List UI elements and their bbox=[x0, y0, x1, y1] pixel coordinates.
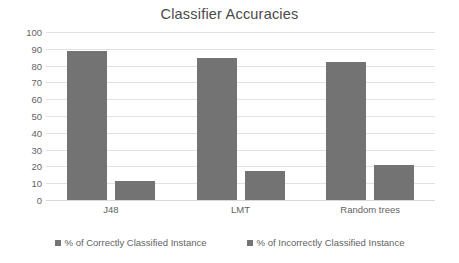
chart-title: Classifier Accuracies bbox=[0, 6, 459, 22]
legend-swatch-icon bbox=[247, 240, 253, 246]
legend-entry[interactable]: % of Correctly Classified Instance bbox=[55, 237, 207, 248]
legend-swatch-icon bbox=[55, 240, 61, 246]
y-axis-tick-label: 60 bbox=[0, 94, 42, 105]
bar bbox=[197, 58, 237, 200]
y-axis-tick-label: 30 bbox=[0, 144, 42, 155]
y-axis-tick-label: 100 bbox=[0, 27, 42, 38]
y-axis-tick-label: 20 bbox=[0, 161, 42, 172]
bar-group bbox=[197, 32, 285, 200]
y-axis-tick-label: 90 bbox=[0, 43, 42, 54]
y-axis-tick-label: 0 bbox=[0, 195, 42, 206]
bar-group bbox=[326, 32, 414, 200]
x-axis-tick-label: LMT bbox=[231, 204, 250, 215]
bar-group bbox=[67, 32, 155, 200]
plot-area bbox=[46, 32, 435, 200]
legend-label: % of Correctly Classified Instance bbox=[65, 237, 207, 248]
bar bbox=[67, 51, 107, 200]
y-axis-tick-label: 80 bbox=[0, 60, 42, 71]
x-axis-tick-label: Random trees bbox=[340, 204, 400, 215]
x-axis-tick-label: J48 bbox=[103, 204, 118, 215]
y-axis-tick-label: 10 bbox=[0, 178, 42, 189]
y-axis-tick-label: 40 bbox=[0, 127, 42, 138]
bar bbox=[374, 165, 414, 200]
legend-label: % of Incorrectly Classified Instance bbox=[257, 237, 405, 248]
bar bbox=[245, 171, 285, 200]
y-axis-tick-label: 70 bbox=[0, 77, 42, 88]
legend-entry[interactable]: % of Incorrectly Classified Instance bbox=[247, 237, 405, 248]
bar bbox=[326, 62, 366, 200]
bar bbox=[115, 181, 155, 200]
y-axis-tick-label: 50 bbox=[0, 111, 42, 122]
y-axis: 1009080706050403020100 bbox=[0, 32, 42, 200]
chart-legend: % of Correctly Classified Instance% of I… bbox=[0, 237, 459, 248]
gridline bbox=[46, 200, 435, 201]
x-axis: J48LMTRandom trees bbox=[46, 204, 435, 220]
chart-container: Classifier Accuracies 100908070605040302… bbox=[0, 0, 459, 263]
